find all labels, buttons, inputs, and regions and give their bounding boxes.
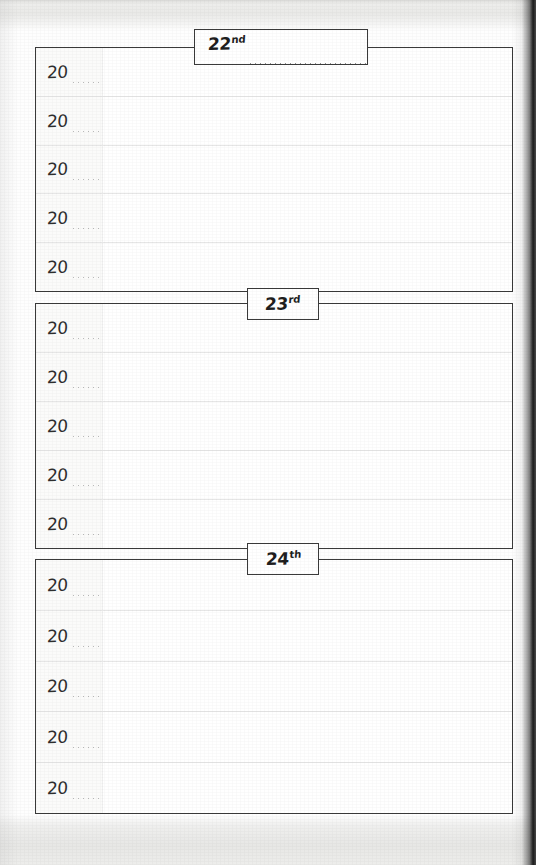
year-prefix: 20 (47, 778, 69, 799)
year-blank-dots (71, 526, 101, 535)
year-prefix: 20 (47, 62, 69, 83)
year-prefix: 20 (47, 465, 69, 486)
year-stub[interactable]: 20 (36, 727, 102, 747)
year-blank-dots (71, 379, 101, 388)
date-ordinal: th (289, 549, 302, 560)
entry-row[interactable]: 20 (36, 763, 512, 813)
year-stub[interactable]: 20 (36, 111, 102, 131)
date-label-text: 24th (265, 550, 301, 568)
year-prefix: 20 (47, 159, 69, 180)
entry-row[interactable]: 20 (36, 243, 512, 291)
year-blank-dots (71, 587, 101, 596)
year-blank-dots (71, 220, 101, 229)
year-blank-dots (71, 688, 101, 697)
entry-row-list: 20 20 20 20 (36, 560, 512, 813)
entry-row[interactable]: 20 (36, 662, 512, 713)
entry-row[interactable]: 20 (36, 146, 512, 195)
year-prefix: 20 (47, 416, 69, 437)
day-section-24: 20 20 20 20 (35, 559, 513, 814)
year-stub[interactable]: 20 (36, 465, 102, 485)
entry-row[interactable]: 20 (36, 500, 512, 548)
entry-row-list: 20 20 20 20 (36, 304, 512, 548)
day-section-22: 20 20 20 20 (35, 47, 513, 292)
year-stub[interactable]: 20 (36, 318, 102, 338)
year-stub[interactable]: 20 (36, 416, 102, 436)
date-number: 23 (265, 294, 289, 314)
year-stub[interactable]: 20 (36, 514, 102, 534)
year-prefix: 20 (47, 257, 69, 278)
date-label-text: 22nd (207, 35, 246, 53)
year-stub[interactable]: 20 (36, 626, 102, 646)
date-number: 22 (207, 34, 231, 54)
page-top-edge-band (0, 0, 536, 30)
year-prefix: 20 (47, 208, 69, 229)
book-spine-shadow (512, 0, 536, 865)
year-blank-dots (71, 739, 101, 748)
year-stub[interactable]: 20 (36, 367, 102, 387)
year-prefix: 20 (47, 318, 69, 339)
entry-row[interactable]: 20 (36, 402, 512, 451)
entry-row[interactable]: 20 (36, 97, 512, 146)
year-blank-dots (71, 638, 101, 647)
date-label-23rd: 23rd (247, 288, 319, 320)
day-section-23: 20 20 20 20 (35, 303, 513, 549)
year-blank-dots (71, 123, 101, 132)
year-stub[interactable]: 20 (36, 575, 102, 595)
year-blank-dots (71, 74, 101, 83)
page-bottom-edge-band (0, 815, 536, 865)
page-left-edge-shade (0, 0, 18, 865)
year-blank-dots (71, 790, 101, 799)
year-prefix: 20 (47, 625, 69, 646)
year-stub[interactable]: 20 (36, 778, 102, 798)
entry-row[interactable]: 20 (36, 451, 512, 500)
year-stub[interactable]: 20 (36, 208, 102, 228)
date-number: 24 (265, 549, 289, 569)
date-ordinal: nd (231, 34, 246, 45)
entry-row[interactable]: 20 (36, 194, 512, 243)
entry-row[interactable]: 20 (36, 712, 512, 763)
year-blank-dots (71, 477, 101, 486)
year-prefix: 20 (47, 110, 69, 131)
diary-page: 20 20 20 20 (0, 0, 536, 865)
year-blank-dots (71, 269, 101, 278)
year-prefix: 20 (47, 676, 69, 697)
year-stub[interactable]: 20 (36, 257, 102, 277)
year-prefix: 20 (47, 575, 69, 596)
year-blank-dots (71, 330, 101, 339)
year-stub[interactable]: 20 (36, 62, 102, 82)
date-label-text: 23rd (265, 295, 301, 313)
date-label-22nd: 22nd (194, 29, 368, 65)
year-prefix: 20 (47, 514, 69, 535)
year-blank-dots (71, 171, 101, 180)
year-prefix: 20 (47, 367, 69, 388)
year-prefix: 20 (47, 727, 69, 748)
entry-row-list: 20 20 20 20 (36, 48, 512, 291)
date-ordinal: rd (288, 294, 301, 305)
year-blank-dots (71, 428, 101, 437)
year-stub[interactable]: 20 (36, 159, 102, 179)
entry-row[interactable]: 20 (36, 353, 512, 402)
month-fill-dotted-line[interactable] (248, 57, 366, 64)
entry-row[interactable]: 20 (36, 611, 512, 662)
year-stub[interactable]: 20 (36, 676, 102, 696)
date-label-24th: 24th (247, 543, 319, 575)
